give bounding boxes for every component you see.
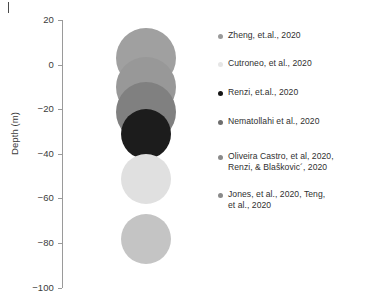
legend-item-label: Jones, et al., 2020, Teng, et al., 2020: [228, 189, 325, 210]
legend-item-label: Zheng, et.al., 2020: [228, 30, 301, 41]
legend-item-label: Cutroneo, et al., 2020: [228, 58, 312, 69]
legend-item[interactable]: Cutroneo, et al., 2020: [218, 58, 368, 87]
legend-item[interactable]: Jones, et al., 2020, Teng, et al., 2020: [218, 189, 368, 210]
data-bubble: [121, 214, 171, 264]
legend-marker-icon: [218, 34, 223, 39]
legend-item-label: Oliveira Castro, et al, 2020, Renzi, & B…: [228, 151, 334, 172]
legend-marker-icon: [218, 155, 223, 160]
bubble-chart-figure: 20 0 −20 −40 −60 −80 −100 Depth (m) Zhen…: [0, 0, 371, 303]
y-tick-label: 20: [8, 15, 54, 25]
y-tick-label: −60: [8, 193, 54, 203]
legend-item-label: Nematollahi et al., 2020: [228, 116, 320, 127]
panel-label-mark: [8, 2, 9, 13]
legend: Zheng, et.al., 2020 Cutroneo, et al., 20…: [218, 30, 368, 210]
legend-marker-icon: [218, 62, 223, 67]
legend-marker-icon: [218, 120, 223, 125]
legend-item-label: Renzi, et.al., 2020: [228, 87, 298, 98]
y-tick-label: −80: [8, 238, 54, 248]
y-tick-label: 0: [8, 60, 54, 70]
y-axis-label: Depth (m): [9, 84, 20, 184]
data-bubble: [121, 109, 171, 159]
legend-marker-icon: [218, 91, 223, 96]
legend-marker-icon: [218, 193, 223, 198]
legend-item[interactable]: Nematollahi et al., 2020: [218, 116, 368, 151]
legend-item[interactable]: Renzi, et.al., 2020: [218, 87, 368, 116]
legend-item[interactable]: Oliveira Castro, et al, 2020, Renzi, & B…: [218, 151, 368, 189]
data-bubble: [121, 154, 171, 204]
legend-item[interactable]: Zheng, et.al., 2020: [218, 30, 368, 58]
y-tick-label: −100: [8, 283, 54, 293]
